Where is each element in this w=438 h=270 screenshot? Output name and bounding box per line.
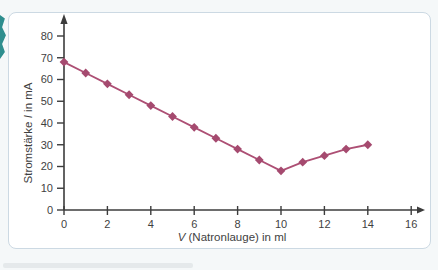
x-tick-label: 12 bbox=[318, 218, 330, 230]
data-point-marker bbox=[190, 123, 199, 132]
page-canvas: 010203040506070800246810121416Stromstärk… bbox=[0, 0, 438, 270]
data-point-marker bbox=[277, 166, 286, 175]
x-axis-arrow-icon bbox=[417, 206, 425, 213]
data-point-marker bbox=[103, 79, 112, 88]
y-axis-arrow-icon bbox=[60, 14, 67, 24]
data-point-marker bbox=[363, 140, 372, 149]
cropped-caption-fragment bbox=[3, 263, 193, 268]
y-tick-label: 80 bbox=[41, 30, 53, 42]
data-point-marker bbox=[233, 145, 242, 154]
titration-line-chart: 010203040506070800246810121416Stromstärk… bbox=[0, 0, 438, 270]
y-tick-label: 60 bbox=[41, 73, 53, 85]
data-point-marker bbox=[81, 69, 90, 78]
x-tick-label: 14 bbox=[362, 218, 374, 230]
y-axis-title: Stromstärke I in mA bbox=[22, 82, 34, 183]
y-tick-label: 10 bbox=[41, 182, 53, 194]
x-tick-label: 10 bbox=[275, 218, 287, 230]
x-tick-label: 4 bbox=[148, 218, 154, 230]
data-point-marker bbox=[168, 112, 177, 121]
y-tick-label: 30 bbox=[41, 139, 53, 151]
data-point-marker bbox=[212, 134, 221, 143]
x-tick-label: 2 bbox=[104, 218, 110, 230]
data-point-marker bbox=[255, 156, 264, 165]
y-tick-label: 70 bbox=[41, 52, 53, 64]
y-tick-label: 40 bbox=[41, 117, 53, 129]
data-point-marker bbox=[60, 58, 69, 67]
x-tick-label: 8 bbox=[235, 218, 241, 230]
x-tick-label: 6 bbox=[191, 218, 197, 230]
data-point-marker bbox=[320, 151, 329, 160]
y-tick-label: 0 bbox=[47, 204, 53, 216]
y-tick-label: 20 bbox=[41, 160, 53, 172]
x-tick-label: 16 bbox=[405, 218, 417, 230]
data-point-marker bbox=[146, 101, 155, 110]
x-tick-label: 0 bbox=[61, 218, 67, 230]
x-axis-title: V (Natronlauge) in ml bbox=[178, 231, 287, 243]
data-point-marker bbox=[125, 90, 134, 99]
data-point-marker bbox=[298, 158, 307, 167]
y-tick-label: 50 bbox=[41, 95, 53, 107]
data-point-marker bbox=[342, 145, 351, 154]
